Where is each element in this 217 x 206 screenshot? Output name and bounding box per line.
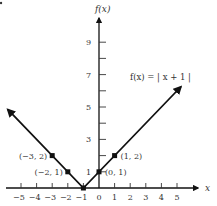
data-point xyxy=(97,169,102,174)
point-label: (−2, 1) xyxy=(35,168,63,177)
absolute-value-graph: −5−4−3−2−101234513579 (−3, 2)(−2, 1)(0, … xyxy=(0,0,217,206)
x-tick-label: 5 xyxy=(174,193,179,202)
data-point xyxy=(50,153,55,158)
x-tick-label: −1 xyxy=(76,193,88,202)
data-point xyxy=(112,153,117,158)
y-tick-label: 9 xyxy=(86,38,91,47)
x-tick-label: 3 xyxy=(143,193,148,202)
y-tick-label: 3 xyxy=(86,135,91,144)
x-tick-label: −2 xyxy=(60,193,72,202)
point-label: (0, 1) xyxy=(105,168,127,177)
x-axis-label: x xyxy=(205,183,210,193)
x-tick-label: 1 xyxy=(112,193,117,202)
y-tick-label: 7 xyxy=(86,71,91,80)
y-tick-label: 5 xyxy=(86,103,91,112)
x-tick-label: −5 xyxy=(13,193,25,202)
data-point xyxy=(65,169,70,174)
axes xyxy=(6,18,198,188)
corner-mark xyxy=(0,2,2,4)
point-label: (−3, 2) xyxy=(19,152,47,161)
x-tick-label: 2 xyxy=(128,193,133,202)
x-tick-label: −3 xyxy=(44,193,56,202)
x-tick-label: 0 xyxy=(96,193,101,202)
point-label: (1, 2) xyxy=(121,152,143,161)
y-tick-label: 1 xyxy=(86,168,91,177)
y-axis-label: f(x) xyxy=(94,4,111,14)
function-label: f(x) = | x + 1 | xyxy=(130,72,191,83)
x-tick-label: 4 xyxy=(159,193,164,202)
x-tick-label: −4 xyxy=(29,193,41,202)
data-point xyxy=(81,186,86,191)
tick-labels: −5−4−3−2−101234513579 xyxy=(13,38,179,202)
